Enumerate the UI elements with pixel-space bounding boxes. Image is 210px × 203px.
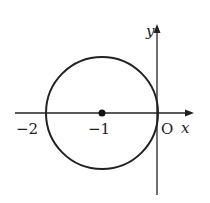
origin-label: O (161, 120, 173, 138)
x-axis-arrow-icon (185, 110, 194, 117)
diagram: y x O −2 −1 (0, 0, 210, 203)
y-axis-arrow-icon (154, 24, 161, 33)
tick-label-neg1: −1 (88, 120, 110, 138)
tick-label-neg2: −2 (16, 120, 38, 138)
x-axis-label: x (181, 119, 190, 137)
y-axis-label: y (145, 22, 155, 40)
center-point (99, 110, 106, 117)
